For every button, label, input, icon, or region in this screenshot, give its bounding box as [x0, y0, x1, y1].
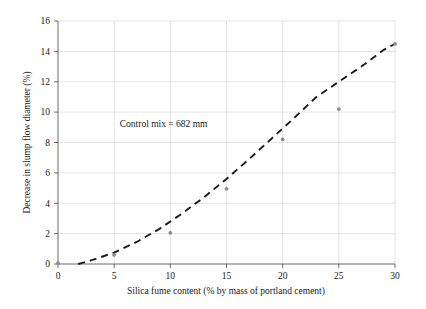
x-tick-label: 5 [112, 271, 117, 281]
y-tick-labels: 0 2 4 6 8 10 12 14 16 [41, 16, 51, 269]
y-tick-label: 0 [45, 259, 50, 269]
y-tick-label: 8 [45, 138, 50, 148]
data-point [393, 42, 397, 46]
y-tick-label: 14 [41, 47, 51, 57]
data-point [281, 138, 285, 142]
y-axis-title: Decrease in slump flow diameter (%) [22, 71, 33, 213]
y-tick-label: 12 [41, 77, 51, 87]
x-tick-labels: 0 5 10 15 20 25 30 [56, 271, 400, 281]
data-point [225, 187, 229, 191]
control-mix-annotation: Control mix = 682 mm [120, 119, 208, 129]
y-tick-label: 2 [45, 229, 50, 239]
x-tick-label: 25 [334, 271, 344, 281]
data-point [56, 261, 60, 265]
y-tick-label: 4 [45, 199, 50, 209]
x-tick-label: 20 [278, 271, 288, 281]
scatter-plot: 0 2 4 6 8 10 12 14 16 0 5 10 15 20 25 30… [0, 0, 426, 309]
x-tick-label: 10 [166, 271, 176, 281]
data-point [168, 231, 172, 235]
y-ticks [54, 21, 58, 264]
x-tick-label: 0 [56, 271, 61, 281]
x-tick-label: 30 [390, 271, 400, 281]
x-axis-title: Silica fume content (% by mass of portla… [127, 286, 325, 297]
y-tick-label: 10 [41, 107, 51, 117]
x-ticks [58, 264, 395, 268]
chart-figure: 0 2 4 6 8 10 12 14 16 0 5 10 15 20 25 30… [0, 0, 426, 309]
x-tick-label: 15 [222, 271, 232, 281]
data-point [112, 253, 116, 257]
y-tick-label: 16 [41, 16, 51, 26]
data-point [337, 107, 341, 111]
y-tick-label: 6 [45, 168, 50, 178]
